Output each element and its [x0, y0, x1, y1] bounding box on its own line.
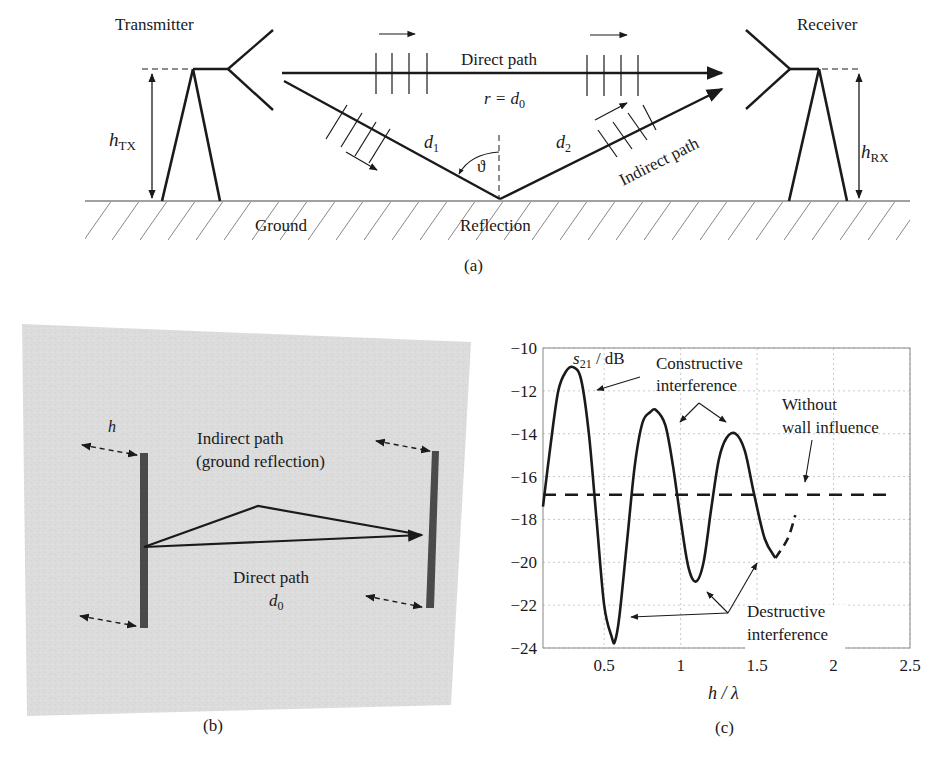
caption-c: (c) — [715, 718, 734, 737]
chart-series — [543, 367, 895, 644]
x-tick-label: 2.5 — [899, 656, 920, 675]
constructive-arrow-2 — [680, 403, 699, 422]
y-tick-label: −18 — [510, 510, 537, 529]
series-line-1 — [775, 515, 795, 558]
receiver-label: Receiver — [797, 15, 858, 34]
htx-label: hTX — [109, 129, 136, 153]
series-line-0 — [543, 367, 775, 644]
incident-ray-d1 — [284, 81, 500, 199]
y-tick-label: −24 — [510, 639, 537, 658]
y-axis-label: s21 / dB — [573, 349, 625, 371]
annotation-without-1: Without — [782, 395, 837, 414]
panel-a-two-ray-diagram: Transmitter hTX Receiver hRX — [85, 15, 910, 275]
incident-propagation-arrow — [346, 152, 377, 170]
destructive-arrow-1 — [631, 613, 728, 617]
y-tick-label: −16 — [510, 468, 537, 487]
annotation-without-2: wall influence — [782, 418, 879, 437]
reflected-propagation-arrow — [595, 103, 627, 120]
x-tick-label: 0.5 — [594, 656, 615, 675]
y-axis-ticks: −10−12−14−16−18−20−22−24 — [510, 339, 537, 658]
caption-a: (a) — [464, 256, 483, 275]
receiver-antenna-icon — [746, 30, 862, 201]
direct-path-line1: Direct path — [233, 568, 309, 587]
y-tick-label: −20 — [510, 553, 537, 572]
x-tick-label: 1 — [676, 656, 685, 675]
hrx-label: hRX — [861, 141, 889, 165]
x-tick-label: 1.5 — [746, 656, 767, 675]
annotation-destructive-2: interference — [747, 625, 828, 644]
theta-label: ϑ — [477, 157, 486, 176]
transmitter-label: Transmitter — [115, 15, 194, 34]
constructive-arrow-3 — [699, 403, 726, 422]
panel-b-measurement-setup: h Indirect path (ground reflection) Dire… — [22, 324, 471, 735]
tx-antenna-bar — [140, 453, 148, 628]
ground-plane-photo — [22, 324, 471, 716]
d1-label: d1 — [424, 132, 439, 155]
direct-path-label: Direct path — [461, 50, 537, 69]
transmitter-antenna-icon — [142, 30, 273, 201]
indirect-path-line1: Indirect path — [197, 429, 284, 448]
indirect-path-label: Indirect path — [616, 133, 702, 189]
y-tick-label: −12 — [510, 382, 537, 401]
panel-c-s21-chart: −10−12−14−16−18−20−22−24 0.511.522.5 s21… — [510, 339, 920, 737]
direct-wavefronts-right — [587, 55, 638, 96]
destructive-arrow-2 — [707, 592, 728, 613]
annotation-constructive-2: interference — [656, 376, 737, 395]
without-wall-arrow — [805, 440, 812, 482]
caption-b: (b) — [203, 716, 223, 735]
y-tick-label: −14 — [510, 425, 537, 444]
h-label: h — [108, 418, 116, 435]
reflection-label: Reflection — [460, 216, 531, 235]
figure-canvas: Transmitter hTX Receiver hRX — [0, 0, 945, 768]
annotation-destructive-1: Destructive — [747, 602, 825, 621]
reflected-wavefronts — [598, 105, 656, 157]
annotation-constructive-1: Constructive — [656, 354, 743, 373]
x-tick-label: 2 — [829, 656, 838, 675]
d2-label: d2 — [556, 132, 571, 155]
y-tick-label: −10 — [510, 339, 537, 358]
x-axis-label: h / λ — [708, 683, 739, 703]
r-equals-d0-label: r = d0 — [484, 89, 525, 111]
y-tick-label: −22 — [510, 596, 537, 615]
constructive-arrow-1 — [597, 377, 640, 390]
ground-label: Ground — [255, 216, 307, 235]
indirect-path-line2: (ground reflection) — [196, 452, 325, 471]
x-axis-ticks: 0.511.522.5 — [594, 656, 921, 675]
